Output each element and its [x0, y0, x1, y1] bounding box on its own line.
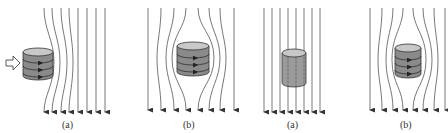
panel-3-label: (a) — [287, 119, 298, 130]
cylinder-1 — [23, 48, 53, 80]
panel-4-label: (b) — [400, 119, 412, 130]
push-arrow-icon — [6, 56, 20, 70]
cylinder-4 — [395, 44, 421, 78]
panel-3 — [234, 8, 320, 112]
diagram-canvas — [0, 0, 448, 133]
cylinder-3 — [282, 49, 306, 87]
cylinder-2 — [177, 42, 209, 76]
panel-1-label: (a) — [62, 119, 73, 130]
panel-2-label: (b) — [183, 119, 195, 130]
